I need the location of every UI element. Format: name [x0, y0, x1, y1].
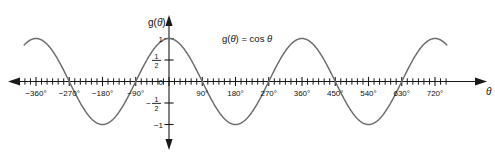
y-axis-arrow-up [165, 15, 172, 26]
x-tick-label: −270° [59, 89, 80, 98]
x-tick-label: 630° [393, 89, 410, 98]
svg-text:−: − [146, 99, 151, 108]
y-tick-label: 0 [159, 78, 164, 87]
x-tick-label: −360° [25, 89, 46, 98]
x-tick-label: 540° [360, 89, 377, 98]
function-label: g(θ) = cos θ [222, 33, 273, 44]
x-tick-label: −90° [127, 89, 144, 98]
y-tick-label: −1 [154, 121, 164, 130]
svg-text:1: 1 [155, 96, 159, 103]
x-axis-arrow-left [8, 78, 20, 86]
cosine-graph-svg: −360°−270°−180°−90°90°180°270°360°450°54… [0, 0, 495, 159]
y-axis-arrow-down [165, 139, 172, 150]
svg-text:1: 1 [155, 53, 159, 60]
svg-text:2: 2 [155, 62, 159, 69]
x-tick-label: 90° [196, 89, 208, 98]
x-axis-arrow-right [475, 78, 487, 86]
y-tick-label: 1 [159, 35, 164, 44]
x-tick-label: 720° [427, 89, 444, 98]
x-axis-tick-labels: −360°−270°−180°−90°90°180°270°360°450°54… [25, 89, 443, 98]
x-tick-label: −180° [92, 89, 113, 98]
cosine-graph-figure: −360°−270°−180°−90°90°180°270°360°450°54… [0, 0, 495, 159]
x-tick-label: 270° [260, 89, 277, 98]
x-axis-title: θ [486, 86, 492, 97]
y-tick-label: −12 [146, 96, 161, 112]
x-tick-label: 180° [227, 89, 244, 98]
y-axis-title: g(θ) [148, 17, 166, 28]
x-tick-label: 450° [327, 89, 344, 98]
x-tick-label: 360° [294, 89, 311, 98]
y-tick-label: 12 [152, 53, 161, 69]
svg-text:2: 2 [155, 105, 159, 112]
